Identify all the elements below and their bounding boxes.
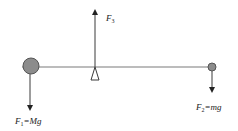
force-label-f3: F3 (105, 13, 115, 24)
fulcrum-triangle (91, 67, 99, 80)
force-label-f1: F1=Mg (14, 116, 42, 127)
force-label-f2: F2=mg (195, 102, 222, 113)
label-f3-subscript: 3 (112, 18, 115, 24)
lever-diagram: F1=Mg F2=mg F3 (0, 0, 238, 131)
small-mass-circle (208, 63, 216, 71)
large-mass-circle (23, 58, 39, 74)
label-f2-equation: =mg (205, 102, 223, 112)
label-f1-equation: =Mg (24, 116, 43, 126)
